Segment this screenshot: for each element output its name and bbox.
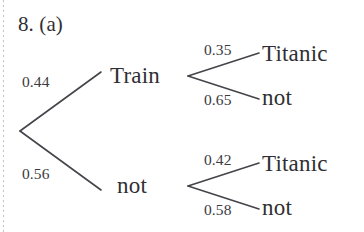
probability-tree-figure: 8. (a) Train not Titanic not Titanic not… (0, 0, 364, 232)
leaf-label-nottrain-not: not (262, 196, 292, 219)
leaf-label-train-not-titanic: not (262, 86, 292, 109)
probability-nottrain-to-titanic: 0.42 (204, 152, 232, 168)
probability-train-to-titanic: 0.35 (204, 42, 232, 58)
node-label-not-train: not (117, 174, 147, 197)
leaf-label-nottrain-titanic: Titanic (262, 152, 328, 175)
node-label-train: Train (110, 64, 160, 87)
probability-train-to-not: 0.65 (204, 92, 232, 108)
probability-root-to-train: 0.44 (22, 74, 50, 90)
exercise-number-label: 8. (a) (18, 14, 63, 35)
probability-nottrain-to-not: 0.58 (204, 202, 232, 218)
leaf-label-train-titanic: Titanic (262, 42, 328, 65)
probability-root-to-not: 0.56 (22, 166, 50, 182)
